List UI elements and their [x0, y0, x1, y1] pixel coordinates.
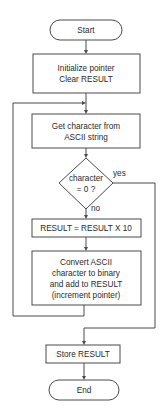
init-line-2: Clear RESULT [59, 75, 113, 84]
convert-line-2: character to binary [52, 269, 121, 278]
start-label: Start [77, 26, 95, 35]
convert-line-3: and add to RESULT [50, 280, 123, 289]
arrowhead [84, 50, 88, 54]
no-label: no [91, 204, 101, 213]
store-label: Store RESULT [56, 350, 110, 359]
get-character-process: Get character from ASCII string [32, 114, 140, 148]
decision-line-2: = 0 ? [77, 185, 96, 194]
start-terminal: Start [50, 20, 122, 40]
multiply-label: RESULT = RESULT X 10 [40, 224, 132, 233]
end-label: End [77, 386, 92, 395]
decision-character-zero: character = 0 ? [59, 158, 113, 209]
init-process: Initialize pointer Clear RESULT [33, 54, 140, 93]
init-line-1: Initialize pointer [58, 64, 115, 73]
convert-line-4: (increment pointer) [52, 291, 121, 300]
arrowhead [84, 215, 88, 219]
arrowhead [82, 376, 86, 380]
decision-line-1: character [69, 174, 103, 183]
arrowhead [82, 101, 86, 105]
store-process: Store RESULT [46, 345, 120, 363]
flowchart: Start Initialize pointer Clear RESULT Ge… [0, 0, 164, 412]
arrowhead [84, 110, 88, 114]
convert-line-1: Convert ASCII [60, 258, 112, 267]
convert-process: Convert ASCII character to binary and ad… [32, 251, 141, 305]
end-terminal: End [49, 380, 119, 400]
yes-label: yes [113, 169, 126, 178]
arrowhead [82, 341, 86, 345]
get-char-line-2: ASCII string [64, 133, 108, 142]
get-char-line-1: Get character from [52, 122, 120, 131]
multiply-process: RESULT = RESULT X 10 [32, 219, 141, 237]
arrowhead [84, 247, 88, 251]
